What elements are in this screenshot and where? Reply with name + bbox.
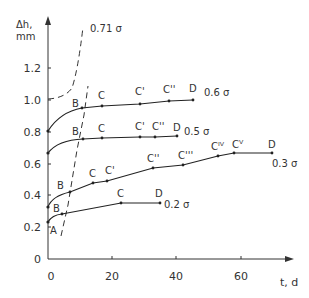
y-tick-label: 0.4 xyxy=(24,189,42,202)
x-tick-label: 60 xyxy=(234,270,248,283)
point-label-d: D xyxy=(173,122,181,133)
point-label-c2: C'' xyxy=(152,121,164,132)
series-label-03: 0.3 σ xyxy=(272,158,298,169)
point-label-c: C xyxy=(89,168,96,179)
series-05-line xyxy=(48,136,177,153)
y-axis-arrow-icon xyxy=(45,16,51,25)
x-axis-label: t, d xyxy=(280,276,298,289)
point-label-c: C xyxy=(98,90,105,101)
series-02-line xyxy=(48,203,160,222)
x-axis-arrow-icon xyxy=(285,256,294,262)
point-label-b: B xyxy=(72,98,79,109)
y-tick-label: 0 xyxy=(34,253,41,266)
series-071-line xyxy=(48,27,83,99)
point-label-d: D xyxy=(155,188,163,199)
point-label-c1: C' xyxy=(135,121,145,132)
y-tick-label: 1.2 xyxy=(24,62,42,75)
chart: 1.2 1.0 0.8 0.6 0.4 0.2 0 0 20 40 60 Δh,… xyxy=(0,0,309,298)
y-tick-label: 0.8 xyxy=(24,126,42,139)
point-label-c3: C''' xyxy=(178,150,193,161)
point-label-c5: Cⱽ xyxy=(232,139,244,150)
y-axis-label-unit: mm xyxy=(16,31,35,42)
x-tick-label: 20 xyxy=(105,270,119,283)
series-02-points xyxy=(46,202,161,224)
point-label-c4: Cᴵⱽ xyxy=(211,141,225,152)
series-label-071: 0.71 σ xyxy=(90,23,122,34)
y-tick-label: 0.2 xyxy=(24,221,42,234)
series-03-points xyxy=(46,152,273,209)
point-label-c2: C'' xyxy=(147,153,159,164)
x-tick-label: 40 xyxy=(169,270,183,283)
series-label-06: 0.6 σ xyxy=(204,87,230,98)
point-label-a: A xyxy=(50,225,57,236)
x-tick-label: 0 xyxy=(48,270,55,283)
series-06-line xyxy=(48,100,193,131)
point-label-b: B xyxy=(72,126,79,137)
point-label-c: C xyxy=(117,188,124,199)
y-tick-label: 0.6 xyxy=(24,158,42,171)
point-label-c1: C' xyxy=(135,86,145,97)
y-tick-label: 1.0 xyxy=(24,94,42,107)
point-label-c: C xyxy=(98,123,105,134)
series-label-05: 0.5 σ xyxy=(184,126,210,137)
point-label-b: B xyxy=(57,180,64,191)
point-label-d: D xyxy=(189,83,197,94)
series-label-02: 0.2 σ xyxy=(164,199,190,210)
point-label-d: D xyxy=(268,139,276,150)
point-label-c2: C'' xyxy=(163,84,175,95)
point-label-b: B xyxy=(53,203,60,214)
point-label-c1: C' xyxy=(105,165,115,176)
y-axis-label: Δh, xyxy=(16,19,32,30)
